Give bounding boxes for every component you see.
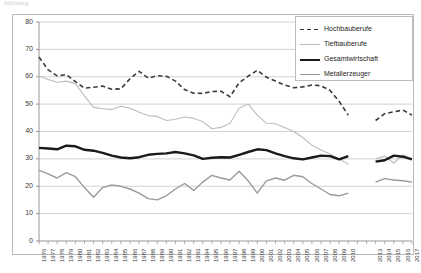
faint-top-caption: Abbildung: [4, 0, 29, 6]
legend-item-hochbauberufe[interactable]: Hochbauberufe: [299, 21, 409, 36]
chart-legend: HochbauberufeTiefbauberufeGesamtwirtscha…: [295, 16, 413, 81]
x-axis-tick-label: 2017: [414, 249, 420, 262]
legend-swatch-icon: [299, 54, 321, 64]
legend-item-tiefbauberufe[interactable]: Tiefbauberufe: [299, 36, 409, 51]
series-line-hochbauberufe: [376, 110, 412, 120]
series-line-metallerzeuger: [39, 170, 348, 200]
legend-swatch-icon: [299, 69, 321, 79]
legend-item-label: Tiefbauberufe: [324, 40, 367, 47]
legend-item-metallerzeuger[interactable]: Metallerzeuger: [299, 66, 409, 81]
legend-swatch-icon: [299, 39, 321, 49]
legend-item-gesamtwirtschaft[interactable]: Gesamtwirtschaft: [299, 51, 409, 66]
series-line-gesamtwirtschaft: [39, 146, 348, 160]
legend-item-label: Metallerzeuger: [324, 70, 370, 77]
series-line-metallerzeuger: [376, 179, 412, 183]
legend-swatch-icon: [299, 24, 321, 34]
legend-item-label: Gesamtwirtschaft: [324, 55, 378, 62]
legend-item-label: Hochbauberufe: [324, 25, 372, 32]
